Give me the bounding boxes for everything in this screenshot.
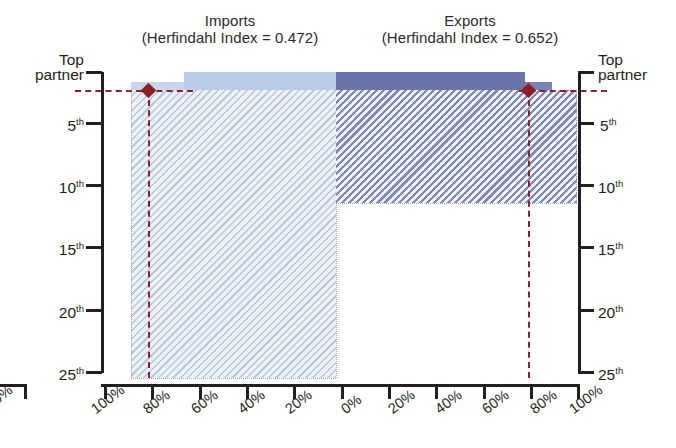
imports-herfindahl-text: (Herfindahl Index = 0.472) (100, 29, 360, 46)
x-tick-5 (341, 384, 344, 399)
x-tick-9 (530, 384, 533, 399)
x-label-left-100: 100% (88, 382, 127, 417)
exports-right-edge-guide (576, 90, 577, 203)
imports-left-edge-guide (131, 90, 132, 378)
y-tick-right-4 (578, 309, 594, 312)
y-tick-right-1 (578, 122, 594, 125)
chart-figure: Imports (Herfindahl Index = 0.472) Expor… (0, 0, 676, 448)
adjacent-chart-x-label-fragment: 100% (0, 382, 15, 417)
imports-reference-vline (148, 90, 150, 378)
imports-title-text: Imports (100, 12, 360, 29)
exports-reference-vline (528, 90, 530, 378)
y-label-right-top-partner: Top partner (598, 52, 676, 82)
x-label-left-20: 20% (282, 387, 315, 417)
x-label-left-80: 80% (140, 387, 173, 417)
plot-area (105, 72, 577, 378)
y-tick-left-1 (86, 122, 102, 125)
exports-top-partner-bar (336, 72, 525, 90)
y-tick-left-3 (86, 246, 102, 249)
exports-herfindahl-text: (Herfindahl Index = 0.652) (340, 29, 600, 46)
x-label-left-40: 40% (235, 387, 268, 417)
exports-area-fill (336, 90, 577, 203)
adjacent-chart-tick-fragment (24, 384, 27, 399)
y-label-left-top-line1: Top (0, 52, 84, 67)
y-label-right-5th: 5th (600, 114, 617, 133)
y-tick-right-2 (578, 184, 594, 187)
exports-panel-title: Exports (Herfindahl Index = 0.652) (340, 12, 600, 46)
imports-baseline-guide (131, 378, 336, 379)
y-tick-left-5 (86, 371, 102, 374)
exports-baseline-guide (336, 203, 577, 204)
y-label-left-5th: 5th (0, 114, 84, 133)
y-label-right-15th: 15th (598, 238, 623, 257)
y-tick-left-0 (86, 71, 102, 74)
imports-reference-hline-left (75, 90, 193, 92)
y-axis-right-line (578, 72, 581, 373)
y-label-right-top-line1: Top (598, 52, 676, 67)
y-label-left-15th: 15th (0, 238, 84, 257)
x-tick-6 (388, 384, 391, 399)
x-label-left-60: 60% (188, 387, 221, 417)
x-tick-7 (435, 384, 438, 399)
imports-second-partner-bar (131, 82, 184, 90)
y-label-right-10th: 10th (598, 176, 623, 195)
y-label-left-top-partner: Top partner (0, 52, 84, 82)
y-label-left-20th: 20th (0, 301, 84, 320)
y-label-right-25th: 25th (598, 363, 623, 382)
y-tick-left-2 (86, 184, 102, 187)
imports-area-fill (131, 90, 336, 378)
imports-top-partner-bar (184, 72, 336, 90)
x-label-right-100: 100% (566, 382, 605, 417)
y-label-right-top-line2: partner (598, 67, 676, 82)
y-tick-right-0 (578, 71, 594, 74)
y-tick-left-4 (86, 309, 102, 312)
y-label-right-20th: 20th (598, 301, 623, 320)
imports-panel-title: Imports (Herfindahl Index = 0.472) (100, 12, 360, 46)
y-label-left-10th: 10th (0, 176, 84, 195)
y-label-left-25th: 25th (0, 363, 84, 382)
y-label-left-top-line2: partner (0, 67, 84, 82)
center-divider-guide (336, 203, 337, 378)
y-tick-right-5 (578, 371, 594, 374)
exports-title-text: Exports (340, 12, 600, 29)
y-tick-right-3 (578, 246, 594, 249)
x-tick-8 (483, 384, 486, 399)
y-axis-left-line (101, 72, 104, 373)
